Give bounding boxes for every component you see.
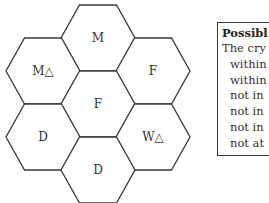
hex-label: F — [149, 64, 157, 78]
hex-label: F — [94, 97, 102, 111]
hex-label: W△ — [142, 130, 164, 144]
hex-label: D — [93, 163, 103, 177]
hex-label: M — [92, 31, 104, 45]
hex-map: MM△FFDW△D — [0, 0, 215, 203]
legend-line: not at — [222, 136, 269, 152]
legend-line: not in — [222, 88, 269, 104]
legend-line-intro: The cry — [222, 41, 269, 57]
legend-line: within — [222, 57, 269, 73]
legend-title: Possibl — [222, 26, 269, 41]
hex-label: M△ — [32, 64, 54, 78]
clue-legend-box: Possibl The cry within within not in not… — [217, 22, 269, 156]
legend-line: within — [222, 73, 269, 89]
legend-line: not in — [222, 120, 269, 136]
hex-label: D — [38, 130, 48, 144]
legend-line: not in — [222, 104, 269, 120]
